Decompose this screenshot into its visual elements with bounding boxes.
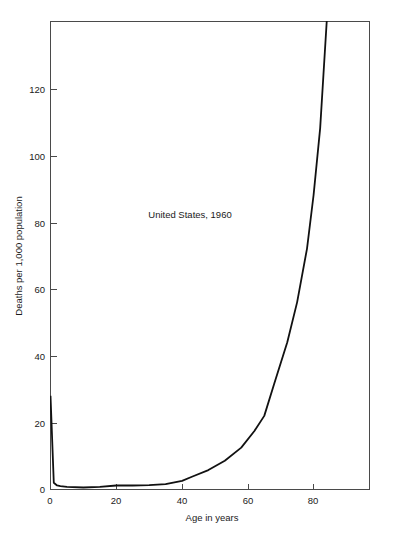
- x-tick-label-0: 0: [47, 495, 52, 506]
- x-axis-title: Age in years: [186, 512, 239, 523]
- y-tick-label-120: 120: [29, 84, 45, 95]
- y-tick-label-40: 40: [34, 351, 45, 362]
- y-tick-label-0: 0: [40, 484, 45, 495]
- y-tick-label-100: 100: [29, 151, 45, 162]
- y-tick-label-60: 60: [34, 284, 45, 295]
- x-tick-label-40: 40: [177, 495, 188, 506]
- y-axis-title: Deaths per 1,000 population: [13, 196, 24, 315]
- y-tick-label-80: 80: [34, 218, 45, 229]
- death-rate-line-chart: 0 20 40 60 80 100 120 0 20 40 60 80 Age …: [0, 0, 398, 535]
- x-axis-tick-labels: 0 20 40 60 80: [47, 495, 318, 506]
- x-tick-label-20: 20: [111, 495, 122, 506]
- chart-annotation-label: United States, 1960: [148, 209, 231, 220]
- chart-figure: 0 20 40 60 80 100 120 0 20 40 60 80 Age …: [0, 0, 398, 535]
- x-tick-label-80: 80: [308, 495, 319, 506]
- y-tick-label-20: 20: [34, 418, 45, 429]
- x-tick-label-60: 60: [243, 495, 254, 506]
- y-axis-tick-labels: 0 20 40 60 80 100 120: [29, 84, 45, 495]
